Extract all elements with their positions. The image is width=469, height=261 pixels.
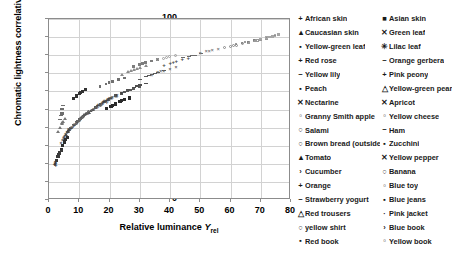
data-point: ×: [174, 66, 177, 69]
legend: +African skin▴Caucasian skin▪Yellow-gree…: [296, 12, 469, 252]
legend-item[interactable]: ▫Blue toy: [380, 179, 464, 193]
legend-item[interactable]: △Yellow-green pear: [380, 81, 464, 95]
data-point: [60, 121, 64, 124]
data-point: [64, 138, 67, 141]
data-point: [82, 113, 86, 116]
legend-item-label: Yellow-green pear: [389, 84, 452, 93]
gridline-horizontal: [49, 37, 289, 38]
data-point: [123, 98, 126, 101]
legend-item[interactable]: ○Salami: [296, 123, 380, 137]
legend-item[interactable]: ✕Apricot: [380, 95, 464, 109]
data-point: +: [66, 131, 70, 134]
legend-item-label: African skin: [305, 14, 347, 23]
legend-item[interactable]: ▫Yellow book: [380, 234, 464, 248]
legend-item[interactable]: +Red rose: [296, 54, 380, 68]
y-axis-title-text: Chromatic lightness correlative: [13, 0, 23, 126]
legend-item[interactable]: ✕Green leaf: [380, 26, 464, 40]
legend-item[interactable]: ✕Yellow pepper: [380, 151, 464, 165]
legend-item-label: Tomato: [305, 153, 331, 162]
legend-item-label: Orange: [305, 181, 331, 190]
legend-item-label: Yellow-green leaf: [305, 42, 365, 51]
x-axis-title-text: Relative luminance: [120, 222, 205, 232]
data-point: [111, 104, 114, 107]
legend-item[interactable]: −Ham: [380, 123, 464, 137]
legend-item[interactable]: ▪Zucchini: [380, 137, 464, 151]
data-point: [105, 100, 108, 103]
x-tick-mark: [230, 199, 231, 202]
legend-marker-icon: ✕: [380, 154, 389, 162]
x-tick-mark: [139, 199, 140, 202]
data-point: [66, 130, 70, 133]
data-point: [63, 117, 67, 120]
legend-item[interactable]: △Red trousers: [296, 206, 380, 220]
data-point: [61, 105, 65, 106]
legend-item[interactable]: ▴Caucasian skin: [296, 26, 380, 40]
data-point: [56, 130, 60, 133]
legend-item[interactable]: −Yellow lily: [296, 68, 380, 82]
legend-marker-icon: ✳: [380, 43, 389, 51]
data-point: [144, 61, 147, 64]
legend-item[interactable]: ▴Tomato: [296, 151, 380, 165]
data-point: [72, 123, 76, 126]
legend-item-label: Green leaf: [389, 28, 425, 37]
legend-item[interactable]: ○Banana: [380, 165, 464, 179]
data-point: [58, 151, 61, 154]
data-point: [84, 113, 87, 116]
legend-item[interactable]: −Orange gerbera: [380, 54, 464, 68]
legend-marker-icon: ›: [380, 224, 389, 232]
data-point: [58, 119, 62, 120]
legend-marker-icon: ▪: [380, 196, 389, 204]
data-point: [247, 41, 250, 44]
gridline-horizontal: [49, 146, 289, 147]
legend-item[interactable]: ✕Nectarine: [296, 95, 380, 109]
data-point: [105, 83, 108, 86]
legend-item-label: Lilac leaf: [389, 42, 421, 51]
legend-item[interactable]: +Pink peony: [380, 68, 464, 82]
legend-item[interactable]: ○Brown bread (outside): [296, 137, 380, 151]
legend-marker-icon: ▪: [380, 140, 389, 148]
legend-item-label: Pink jacket: [389, 209, 428, 218]
legend-item[interactable]: ·Pink jacket: [380, 206, 464, 220]
data-point: [135, 67, 139, 70]
legend-item[interactable]: ▪Peach: [296, 81, 380, 95]
data-point: [81, 115, 84, 118]
x-tick-mark: [109, 199, 110, 202]
data-point: [117, 78, 120, 81]
legend-item[interactable]: ▪Blue jeans: [380, 193, 464, 207]
legend-item[interactable]: +Orange: [296, 179, 380, 193]
legend-item[interactable]: ▫Yellow cheese: [380, 109, 464, 123]
x-tick-mark: [260, 199, 261, 202]
legend-marker-icon: −: [380, 126, 389, 134]
legend-item[interactable]: ›Cucumber: [296, 165, 380, 179]
data-point: [114, 94, 117, 97]
data-point: [81, 116, 85, 117]
legend-column-2: ■Asian skin✕Green leaf✳Lilac leaf−Orange…: [380, 12, 464, 252]
data-point: [87, 110, 90, 113]
legend-item[interactable]: ○yellow shirt: [296, 220, 380, 234]
legend-item-label: Yellow cheese: [389, 112, 439, 121]
legend-item[interactable]: −Strawberry yogurt: [296, 193, 380, 207]
gridline-vertical: [110, 19, 111, 198]
data-point: ×: [63, 135, 66, 138]
data-point: ×: [205, 50, 208, 53]
legend-item[interactable]: ✳Lilac leaf: [380, 40, 464, 54]
legend-marker-icon: ○: [296, 140, 305, 148]
data-point: [63, 140, 66, 143]
legend-item[interactable]: ▫Granny Smith apple: [296, 109, 380, 123]
legend-item-label: Asian skin: [389, 14, 426, 23]
legend-item[interactable]: ■Asian skin: [380, 12, 464, 26]
data-point: ×: [115, 94, 118, 97]
data-point: ×: [211, 49, 214, 52]
legend-marker-icon: −: [296, 71, 305, 79]
legend-item[interactable]: ▪Red book: [296, 234, 380, 248]
legend-item[interactable]: +African skin: [296, 12, 380, 26]
legend-item[interactable]: ›Blue book: [380, 220, 464, 234]
gridline-vertical: [170, 19, 171, 198]
legend-marker-icon: ▫: [296, 112, 305, 120]
legend-item-label: Apricot: [389, 98, 415, 107]
legend-item-label: Blue jeans: [389, 195, 426, 204]
data-point: [60, 112, 64, 113]
data-point: +: [187, 57, 191, 60]
legend-item[interactable]: ▪Yellow-green leaf: [296, 40, 380, 54]
x-tick-label: 30: [127, 205, 151, 215]
